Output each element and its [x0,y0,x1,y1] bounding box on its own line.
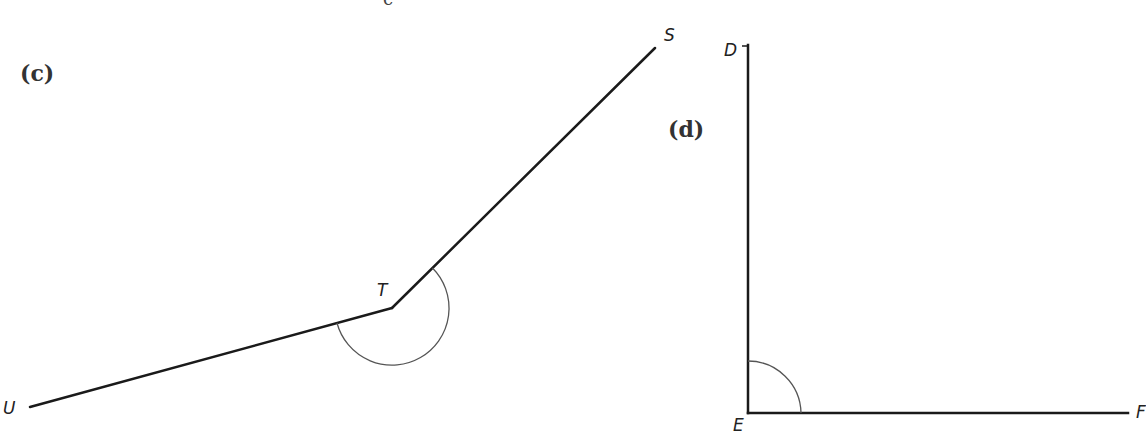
vertex-label-t: T [377,282,387,299]
ray-tu [30,308,392,407]
right-angle-arc [748,361,801,413]
angle-stu [30,48,655,407]
vertex-label-u: U [3,400,15,417]
reflex-angle-arc [337,268,449,365]
vertex-label-e: E [733,417,744,434]
vertex-label-f: F [1136,404,1146,421]
vertex-label-s: S [664,27,675,44]
ray-ts [392,48,655,308]
vertex-label-d: D [724,42,737,59]
angle-def [742,45,1128,413]
